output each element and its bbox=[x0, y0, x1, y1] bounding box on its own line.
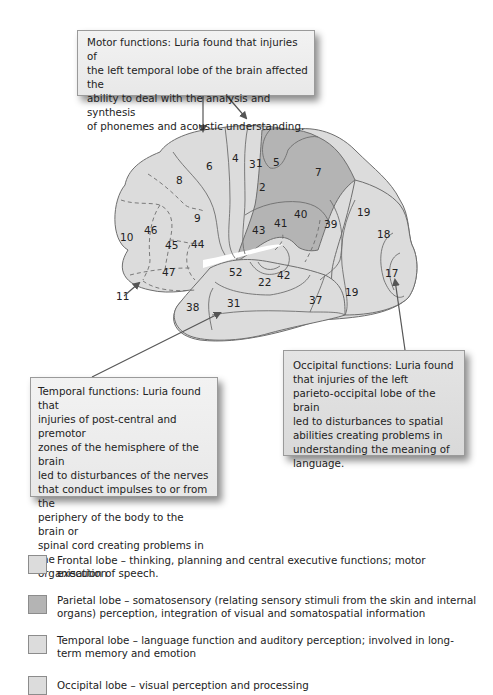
area-7-label: 7 bbox=[315, 166, 322, 178]
legend-occipital-text: Occipital lobe – visual perception and p… bbox=[57, 679, 477, 692]
area-19-lower-label: 19 bbox=[345, 286, 358, 298]
area-18-label: 18 bbox=[377, 228, 390, 240]
legend-temporal-text: Temporal lobe – language function and au… bbox=[57, 634, 477, 660]
area-40-label: 40 bbox=[294, 208, 307, 220]
legend-parietal-text: Parietal lobe – somatosensory (relating … bbox=[57, 594, 477, 620]
area-1-label: 1 bbox=[256, 157, 263, 169]
area-2-label: 2 bbox=[259, 181, 266, 193]
area-52-label: 52 bbox=[229, 266, 242, 278]
temporal-functions-text: Temporal functions: Luria found that inj… bbox=[38, 384, 211, 580]
area-45-label: 45 bbox=[165, 239, 178, 251]
temporal-swatch bbox=[28, 635, 47, 654]
parietal-swatch bbox=[28, 595, 47, 614]
area-37-label: 37 bbox=[309, 294, 322, 306]
area-17-label: 17 bbox=[385, 267, 398, 279]
area-44-label: 44 bbox=[191, 238, 205, 250]
motor-functions-callout: Motor functions: Luria found that injuri… bbox=[77, 30, 315, 96]
area-5-label: 5 bbox=[273, 156, 280, 168]
area-8-label: 8 bbox=[176, 174, 183, 186]
temporal-functions-callout: Temporal functions: Luria found that inj… bbox=[30, 377, 218, 497]
area-22-label: 22 bbox=[258, 276, 271, 288]
area-6-label: 6 bbox=[206, 160, 213, 172]
occipital-functions-text: Occipital functions: Luria found that in… bbox=[293, 358, 458, 470]
area-39-label: 39 bbox=[324, 218, 337, 230]
area-11-label: 11 bbox=[116, 290, 129, 302]
area-4-label: 4 bbox=[232, 152, 239, 164]
occipital-functions-callout: Occipital functions: Luria found that in… bbox=[283, 350, 465, 456]
motor-functions-text: Motor functions: Luria found that injuri… bbox=[87, 35, 308, 133]
area-38-label: 38 bbox=[186, 301, 199, 313]
temporal-arrow bbox=[92, 313, 220, 377]
area-47-label: 47 bbox=[162, 266, 175, 278]
legend-frontal-text: Frontal lobe – thinking, planning and ce… bbox=[57, 554, 477, 580]
frontal-swatch bbox=[28, 555, 47, 574]
area-19-upper-label: 19 bbox=[357, 206, 370, 218]
area-3-label: 3 bbox=[249, 158, 256, 170]
area-43-label: 43 bbox=[252, 224, 265, 236]
occipital-swatch bbox=[28, 676, 47, 695]
area-46-label: 46 bbox=[144, 224, 158, 236]
area-31-label: 31 bbox=[227, 297, 240, 309]
area-10-label: 10 bbox=[120, 231, 133, 243]
area-42-label: 42 bbox=[277, 269, 290, 281]
area-41-label: 41 bbox=[274, 217, 287, 229]
area-9-label: 9 bbox=[194, 212, 201, 224]
